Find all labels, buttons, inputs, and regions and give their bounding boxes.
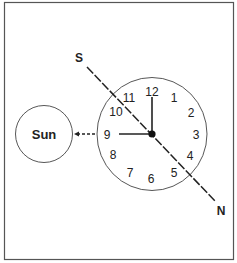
clock-number-7: 7 [127,166,134,180]
clock-number-5: 5 [171,166,178,180]
clock-number-3: 3 [193,128,200,142]
clock-number-8: 8 [110,148,117,162]
sun-label: Sun [32,127,57,142]
clock-number-11: 11 [123,91,136,105]
clock-number-10: 10 [109,105,123,119]
sundial-clock-diagram: Sun 12 1 2 3 4 5 6 7 8 9 10 11 S N [0,0,237,263]
clock-center-pivot [148,130,155,137]
clock-number-9: 9 [104,128,111,142]
clock-number-1: 1 [171,91,178,105]
clock-number-4: 4 [187,149,194,163]
north-label: N [217,204,226,218]
clock-number-12: 12 [145,85,159,99]
south-label: S [75,51,83,65]
clock-number-6: 6 [148,172,155,186]
clock-number-2: 2 [188,106,195,120]
